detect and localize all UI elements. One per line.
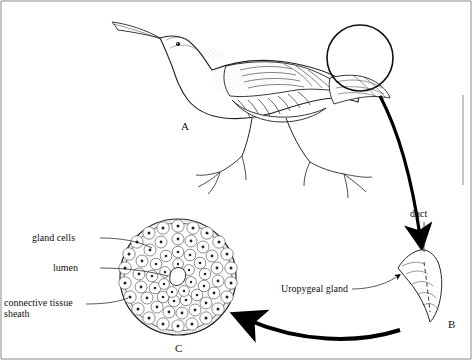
arrow-b-to-c xyxy=(248,320,400,339)
gland-closeup-illustration xyxy=(398,222,442,322)
figure-canvas: A B C duct Uropygeal gland gland cells l… xyxy=(0,0,472,360)
cross-section-illustration xyxy=(119,219,237,335)
panel-letter-b: B xyxy=(448,318,455,330)
label-lumen: lumen xyxy=(53,262,78,273)
label-uropygeal-gland: Uropygeal gland xyxy=(281,283,348,294)
uropygeal-gland-leader-line xyxy=(352,276,398,289)
label-duct: duct xyxy=(410,208,427,219)
panel-letter-a: A xyxy=(181,120,189,132)
lumen-cavity xyxy=(170,267,186,285)
label-gland-cells: gland cells xyxy=(32,232,75,243)
bird-illustration xyxy=(112,22,390,198)
connective-tissue-leader-line xyxy=(86,298,128,304)
panel-letter-c: C xyxy=(175,342,182,354)
label-connective-tissue-sheath: connective tissue sheath xyxy=(4,297,73,319)
